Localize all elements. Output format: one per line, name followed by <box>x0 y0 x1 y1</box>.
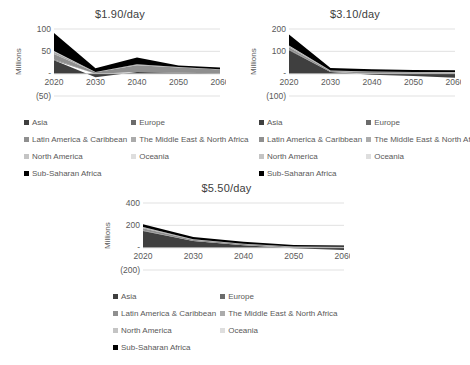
legend-item-sub-saharan-africa: Sub-Saharan Africa <box>259 169 362 178</box>
chart-block-3-10-per-day: $3.10/day Millions 200100-(100)202020302… <box>235 0 470 178</box>
legend-swatch-icon <box>24 171 29 176</box>
chart-area: Millions 400200-(200)2020203020402050206… <box>103 198 365 278</box>
chart-title: $1.90/day <box>14 8 226 20</box>
legend-swatch-icon <box>113 294 118 299</box>
stacked-area-chart: 10050-(50)20202030204020502060 <box>26 24 226 104</box>
legend-label: Oceania <box>228 326 258 335</box>
chart-area: Millions 10050-(50)20202030204020502060 <box>14 24 235 104</box>
legend-item-sub-saharan-africa: Sub-Saharan Africa <box>24 169 127 178</box>
legend-swatch-icon <box>259 154 264 159</box>
legend-item-north-america: North America <box>113 326 216 335</box>
x-tick-label: 2060 <box>446 77 461 87</box>
y-tick-label: (200) <box>120 265 140 275</box>
legend-swatch-icon <box>366 137 371 142</box>
legend-swatch-icon <box>259 171 264 176</box>
y-tick-label: (50) <box>36 91 51 101</box>
x-tick-label: 2050 <box>284 251 303 261</box>
y-axis-title: Millions <box>249 26 261 98</box>
legend-swatch-icon <box>220 294 225 299</box>
x-tick-label: 2050 <box>169 77 188 87</box>
legend-item-the-middle-east-north-africa: The Middle East & North Africa <box>131 135 248 144</box>
legend-label: Sub-Saharan Africa <box>267 169 336 178</box>
legend-swatch-icon <box>24 120 29 125</box>
legend-label: Oceania <box>139 152 169 161</box>
legend-swatch-icon <box>131 120 136 125</box>
legend-label: Asia <box>121 292 137 301</box>
legend-item-asia: Asia <box>113 292 216 301</box>
legend-item-oceania: Oceania <box>131 152 248 161</box>
legend-label: The Middle East & North Africa <box>139 135 248 144</box>
y-tick-label: 50 <box>42 46 52 56</box>
legend-swatch-icon <box>24 154 29 159</box>
legend-label: Sub-Saharan Africa <box>121 343 190 352</box>
x-tick-label: 2030 <box>86 77 105 87</box>
x-tick-label: 2030 <box>184 251 203 261</box>
x-tick-label: 2020 <box>45 77 64 87</box>
legend-item-latin-america-caribbean: Latin America & Caribbean <box>113 309 216 318</box>
x-tick-label: 2020 <box>134 251 153 261</box>
legend-item-latin-america-caribbean: Latin America & Caribbean <box>259 135 362 144</box>
legend-label: Latin America & Caribbean <box>267 135 362 144</box>
legend-item-latin-america-caribbean: Latin America & Caribbean <box>24 135 127 144</box>
legend-item-sub-saharan-africa: Sub-Saharan Africa <box>113 343 216 352</box>
legend-item-asia: Asia <box>259 118 362 127</box>
x-tick-label: 2020 <box>280 77 299 87</box>
legend-label: Sub-Saharan Africa <box>32 169 101 178</box>
legend-label: North America <box>267 152 318 161</box>
legend-label: North America <box>32 152 83 161</box>
legend-swatch-icon <box>131 154 136 159</box>
x-tick-label: 2040 <box>363 77 382 87</box>
legend: AsiaEuropeLatin America & CaribbeanThe M… <box>113 292 365 352</box>
legend: AsiaEuropeLatin America & CaribbeanThe M… <box>24 118 235 178</box>
legend-swatch-icon <box>259 137 264 142</box>
legend-item-oceania: Oceania <box>366 152 470 161</box>
legend-item-north-america: North America <box>259 152 362 161</box>
legend-label: Latin America & Caribbean <box>121 309 216 318</box>
legend-swatch-icon <box>113 345 118 350</box>
legend-label: Asia <box>32 118 48 127</box>
legend-item-europe: Europe <box>131 118 248 127</box>
y-tick-label: 400 <box>126 198 140 208</box>
legend-item-north-america: North America <box>24 152 127 161</box>
y-tick-label: (100) <box>266 91 286 101</box>
y-tick-label: 200 <box>272 24 286 34</box>
legend-label: Asia <box>267 118 283 127</box>
legend-item-the-middle-east-north-africa: The Middle East & North Africa <box>366 135 470 144</box>
y-axis-title: Millions <box>103 200 115 272</box>
x-tick-label: 2060 <box>335 251 350 261</box>
top-chart-row: $1.90/day Millions 10050-(50)20202030204… <box>0 0 470 178</box>
x-tick-label: 2060 <box>211 77 226 87</box>
legend-swatch-icon <box>113 311 118 316</box>
legend-label: Latin America & Caribbean <box>32 135 127 144</box>
legend-label: Europe <box>139 118 165 127</box>
legend-item-asia: Asia <box>24 118 127 127</box>
y-tick-label: 100 <box>272 46 286 56</box>
chart-title: $3.10/day <box>249 8 461 20</box>
legend-swatch-icon <box>366 120 371 125</box>
legend-label: Europe <box>374 118 400 127</box>
legend-swatch-icon <box>24 137 29 142</box>
legend-label: The Middle East & North Africa <box>228 309 337 318</box>
y-tick-label: 100 <box>37 24 51 34</box>
x-tick-label: 2040 <box>234 251 253 261</box>
y-tick-label: 200 <box>126 220 140 230</box>
legend-item-europe: Europe <box>366 118 470 127</box>
legend-label: Oceania <box>374 152 404 161</box>
legend-swatch-icon <box>131 137 136 142</box>
legend-swatch-icon <box>113 328 118 333</box>
chart-title: $5.50/day <box>103 182 350 194</box>
legend-swatch-icon <box>220 328 225 333</box>
y-axis-title: Millions <box>14 26 26 98</box>
stacked-area-chart: 400200-(200)20202030204020502060 <box>115 198 350 278</box>
legend-item-the-middle-east-north-africa: The Middle East & North Africa <box>220 309 337 318</box>
legend-item-europe: Europe <box>220 292 337 301</box>
legend-label: North America <box>121 326 172 335</box>
legend: AsiaEuropeLatin America & CaribbeanThe M… <box>259 118 470 178</box>
chart-block-5-50-per-day: $5.50/day Millions 400200-(200)202020302… <box>103 178 365 352</box>
legend-label: The Middle East & North Africa <box>374 135 470 144</box>
x-tick-label: 2040 <box>128 77 147 87</box>
stacked-area-chart: 200100-(100)20202030204020502060 <box>261 24 461 104</box>
chart-block-1-90-per-day: $1.90/day Millions 10050-(50)20202030204… <box>0 0 235 178</box>
x-tick-label: 2050 <box>404 77 423 87</box>
legend-swatch-icon <box>366 154 371 159</box>
